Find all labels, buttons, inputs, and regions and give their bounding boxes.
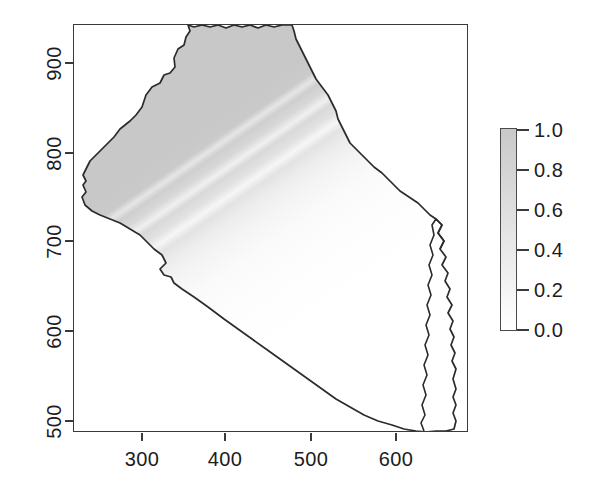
plot-panel: [73, 24, 468, 432]
x-tick-400: [224, 433, 226, 441]
y-tick-500: [65, 420, 73, 422]
probability-field: [74, 25, 467, 431]
x-tick-label-300: 300: [125, 448, 160, 471]
y-tick-700: [65, 240, 73, 242]
map-clip-region: [74, 25, 467, 431]
y-tick-label-500: 500: [43, 402, 66, 442]
y-tick-600: [65, 330, 73, 332]
x-tick-300: [141, 433, 143, 441]
y-tick-label-600: 600: [43, 312, 66, 352]
colorbar-legend: 1.0 0.8 0.6 0.4 0.2 0.0: [500, 128, 517, 331]
colorbar-tick-0.2: [517, 289, 529, 291]
x-tick-label-400: 400: [208, 448, 243, 471]
colorbar-label-0.8: 0.8: [534, 159, 563, 182]
colorbar-label-0.6: 0.6: [534, 199, 563, 222]
colorbar-label-0.0: 0.0: [534, 319, 563, 342]
y-tick-label-700: 700: [43, 222, 66, 262]
colorbar-label-1.0: 1.0: [534, 119, 563, 142]
y-tick-label-800: 800: [43, 134, 66, 174]
transition-band-dither: [74, 25, 467, 431]
colorbar-label-0.2: 0.2: [534, 279, 563, 302]
x-tick-600: [395, 433, 397, 441]
y-tick-800: [65, 152, 73, 154]
colorbar-tick-0.8: [517, 169, 529, 171]
x-tick-label-500: 500: [294, 448, 329, 471]
x-tick-500: [310, 433, 312, 441]
colorbar-tick-0.6: [517, 209, 529, 211]
colorbar-gradient: [500, 128, 517, 331]
figure-canvas: 300 400 500 600 900 800 700 600 500 1.0 …: [0, 0, 589, 497]
y-tick-900: [65, 62, 73, 64]
colorbar-tick-0.4: [517, 249, 529, 251]
x-tick-label-600: 600: [379, 448, 414, 471]
colorbar-tick-1.0: [517, 129, 529, 131]
y-tick-label-900: 900: [43, 44, 66, 84]
liberia-choropleth-map: [74, 25, 467, 431]
colorbar-tick-0.0: [517, 329, 529, 331]
colorbar-label-0.4: 0.4: [534, 239, 563, 262]
